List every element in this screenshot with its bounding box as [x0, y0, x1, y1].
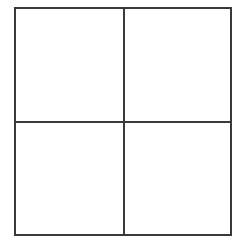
- grid-cell-bottom-right: [125, 123, 230, 234]
- figure-canvas: [0, 0, 247, 244]
- two-by-two-grid: [14, 7, 232, 236]
- grid-divider-horizontal: [16, 121, 230, 123]
- grid-cell-top-left: [16, 9, 123, 121]
- grid-cell-bottom-left: [16, 123, 123, 234]
- grid-cell-top-right: [125, 9, 230, 121]
